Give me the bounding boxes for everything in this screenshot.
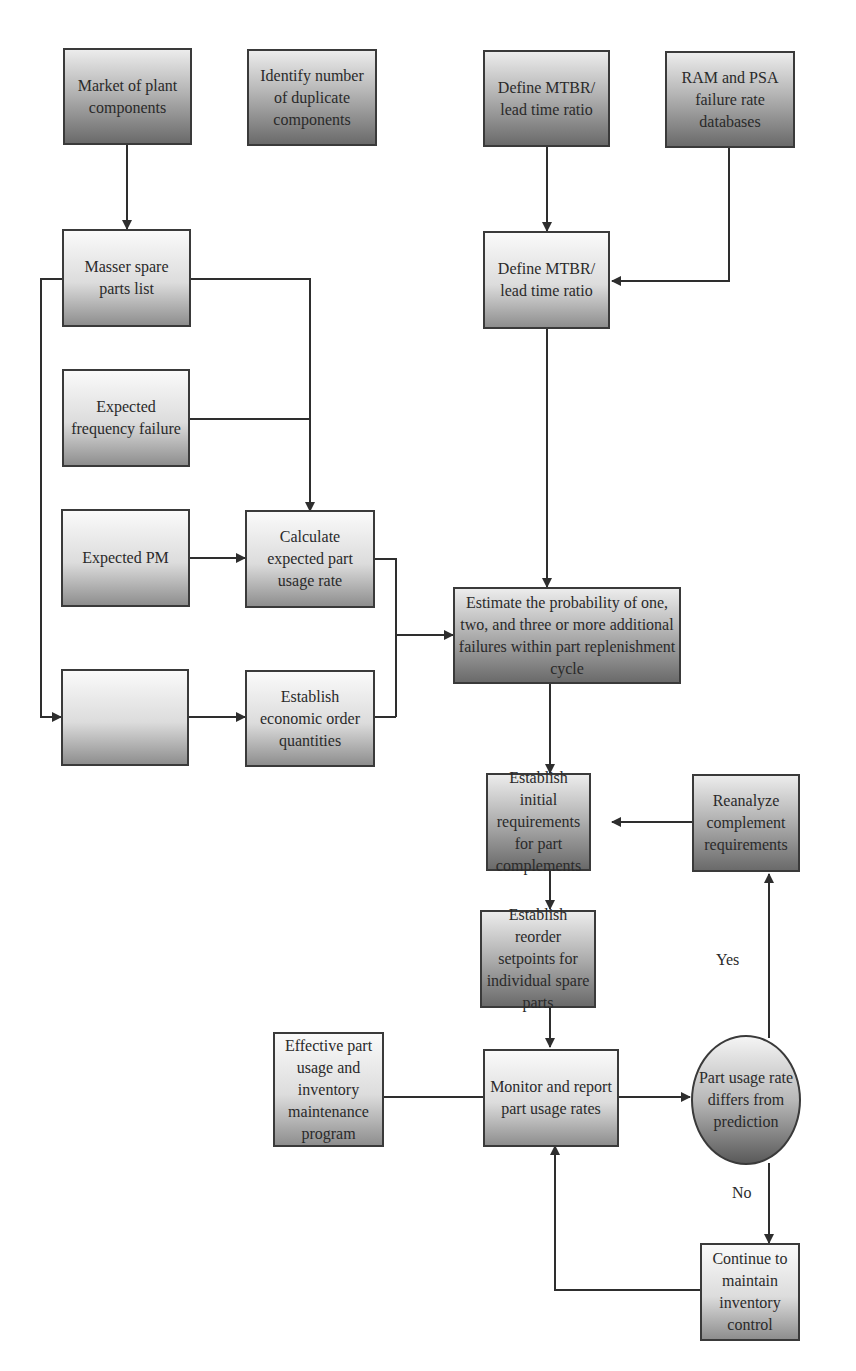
node-define-mtbr-top: Define MTBR/ lead time ratio bbox=[483, 50, 610, 147]
edge-continue-to-monitor bbox=[555, 1146, 700, 1290]
node-label: Establish reorder setpoints for individu… bbox=[485, 904, 591, 1014]
node-label: Market of plant components bbox=[68, 75, 187, 119]
node-reanalyze-complement: Reanalyze complement requirements bbox=[692, 774, 800, 872]
node-identify-duplicate-components: Identify number of duplicate components bbox=[247, 49, 377, 146]
node-establish-eoq: Establish economic order quantities bbox=[245, 670, 375, 767]
node-label: Monitor and report part usage rates bbox=[488, 1076, 614, 1120]
node-label: Identify number of duplicate components bbox=[252, 65, 372, 131]
node-master-spare-parts-list: Masser spare parts list bbox=[62, 229, 191, 327]
node-label: Part usage rate differs from prediction bbox=[693, 1067, 799, 1133]
node-label: Masser spare parts list bbox=[67, 256, 186, 300]
node-blank-box bbox=[61, 669, 189, 766]
node-establish-reorder-setpoints: Establish reorder setpoints for individu… bbox=[480, 910, 596, 1008]
node-define-mtbr-mid: Define MTBR/ lead time ratio bbox=[483, 231, 610, 329]
node-label: Expected frequency failure bbox=[67, 396, 185, 440]
node-estimate-probability: Estimate the probability of one, two, an… bbox=[453, 587, 681, 684]
node-label: Establish economic order quantities bbox=[250, 686, 370, 752]
node-continue-inventory-control: Continue to maintain inventory control bbox=[700, 1243, 800, 1341]
node-effective-part-usage-program: Effective part usage and inventory maint… bbox=[273, 1032, 384, 1147]
node-monitor-report-usage: Monitor and report part usage rates bbox=[483, 1049, 619, 1147]
edge-ram-psa-to-define-mtbr-mid bbox=[612, 148, 729, 281]
node-label: Calculate expected part usage rate bbox=[250, 526, 370, 592]
edge-label-yes: Yes bbox=[716, 951, 739, 969]
node-label: Define MTBR/ lead time ratio bbox=[488, 77, 605, 121]
edge-calculate-to-merge bbox=[374, 559, 396, 717]
edge-master-list-to-calculate bbox=[190, 279, 310, 511]
node-label: Define MTBR/ lead time ratio bbox=[488, 258, 605, 302]
node-label: Expected PM bbox=[82, 547, 169, 569]
node-label: Continue to maintain inventory control bbox=[705, 1248, 795, 1336]
node-ram-psa-databases: RAM and PSA failure rate databases bbox=[665, 51, 795, 148]
node-label: RAM and PSA failure rate databases bbox=[670, 67, 790, 133]
node-label: Effective part usage and inventory maint… bbox=[278, 1035, 379, 1145]
node-market-of-plant-components: Market of plant components bbox=[63, 48, 192, 145]
node-decision-usage-differs: Part usage rate differs from prediction bbox=[691, 1035, 801, 1165]
node-expected-pm: Expected PM bbox=[61, 509, 190, 607]
node-label: Reanalyze complement requirements bbox=[697, 790, 795, 856]
node-establish-initial-requirements: Establish initial requirements for part … bbox=[486, 773, 591, 871]
node-label: Establish initial requirements for part … bbox=[491, 767, 586, 877]
node-label: Estimate the probability of one, two, an… bbox=[458, 592, 676, 680]
edge-master-list-to-blank-box bbox=[41, 279, 62, 717]
edge-label-no: No bbox=[732, 1184, 752, 1202]
node-expected-frequency-failure: Expected frequency failure bbox=[62, 369, 190, 467]
node-calculate-expected-usage: Calculate expected part usage rate bbox=[245, 510, 375, 608]
